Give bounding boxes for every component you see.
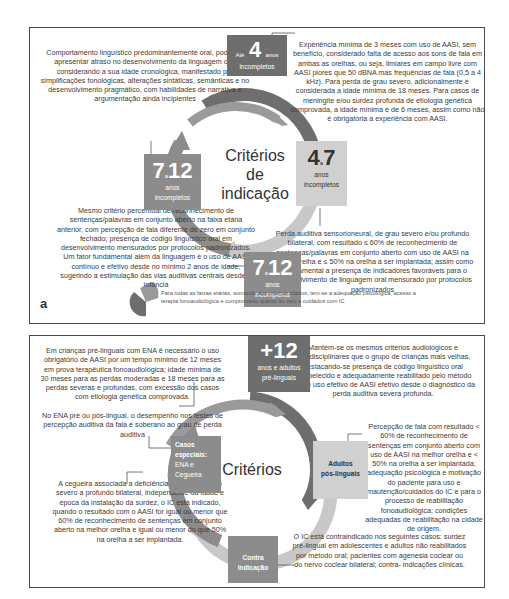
- age-line1: anos e adultos: [248, 363, 310, 373]
- center-title-line1: Critérios: [210, 146, 300, 165]
- age-number: 4: [249, 37, 261, 62]
- contra-line1: Contra: [228, 553, 278, 563]
- age-number: +12: [248, 339, 310, 363]
- contra-line2: indicação: [228, 563, 278, 573]
- postlingual-adults-box: Adultos pós-linguais: [313, 441, 368, 499]
- adults-line2: pós-linguais: [313, 469, 368, 479]
- age-to: 7: [323, 145, 335, 170]
- age-to: 12: [268, 255, 292, 280]
- text-special-cases-ena: Em crianças pré-linguais com ENA é neces…: [40, 346, 225, 402]
- age-sub: incompletos: [144, 193, 201, 203]
- age-box-4-to-7: 4a7 anos incompletos: [296, 141, 347, 206]
- panel-a-indication-criteria-by-age: Comportamento linguístico predominanteme…: [29, 27, 485, 324]
- age-box-7-to-12-left: 7a12 anos incompletos: [144, 154, 201, 210]
- age-sub: incompletos: [296, 180, 347, 190]
- age-box-over-12: +12 anos e adultos pré-linguais: [248, 336, 310, 392]
- special-line1: Casos: [175, 440, 221, 450]
- text-over-12-prelingual: Mantém-se os mesmos critérios audiológic…: [288, 343, 478, 399]
- center-title-line3: indicação: [210, 184, 300, 203]
- age-unit: anos: [296, 170, 347, 180]
- center-title-line2: de: [210, 165, 300, 184]
- age-prefix: Até: [235, 52, 244, 58]
- footnote: Para todas as faixas etárias, somando ao…: [161, 289, 421, 305]
- age-from: 7: [152, 158, 164, 183]
- contraindication-box: Contra indicação: [228, 536, 278, 583]
- adults-line1: Adultos: [313, 459, 368, 469]
- age-unit: anos: [144, 183, 201, 193]
- special-line2: especiais:: [175, 450, 221, 460]
- center-title-a: Critérios de indicação: [210, 146, 300, 203]
- age-line2: pré-linguais: [248, 373, 310, 383]
- text-7-to-12-language: Mesmo critério percentual de reconhecime…: [56, 206, 256, 290]
- age-from: 4: [308, 145, 320, 170]
- age-sub: incompletos: [227, 62, 287, 72]
- text-under-4-audiology: Experiência mínima de 3 meses com uso de…: [290, 40, 485, 124]
- panel-letter: a: [40, 296, 47, 311]
- text-contraindication: O IC está contraindicado nos seguintes c…: [292, 532, 467, 569]
- text-postlingual-adults: Percepção de fala com resultado < 60% de…: [365, 422, 483, 534]
- text-special-cases-ena-2: No ENA pré ou pós-lingual, o desempenho …: [40, 411, 225, 439]
- age-to: 12: [168, 158, 192, 183]
- age-suffix: anos: [266, 52, 279, 58]
- panel-b-indication-criteria-adults: Em crianças pré-linguais com ENA é neces…: [29, 335, 485, 588]
- center-title-b: Critérios: [207, 460, 297, 479]
- text-under-4-language: Comportamento linguístico predominanteme…: [40, 48, 250, 104]
- age-from: 7: [252, 255, 264, 280]
- age-box-under-4: Até 4 anos incompletos: [227, 35, 287, 76]
